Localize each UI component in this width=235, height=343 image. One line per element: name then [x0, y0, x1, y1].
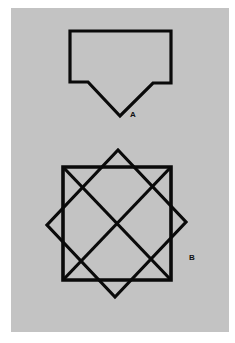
- figure-drawing: [0, 0, 235, 343]
- shape-a-pentagon: [70, 31, 171, 116]
- label-b: B: [189, 254, 195, 262]
- label-a: A: [130, 111, 136, 119]
